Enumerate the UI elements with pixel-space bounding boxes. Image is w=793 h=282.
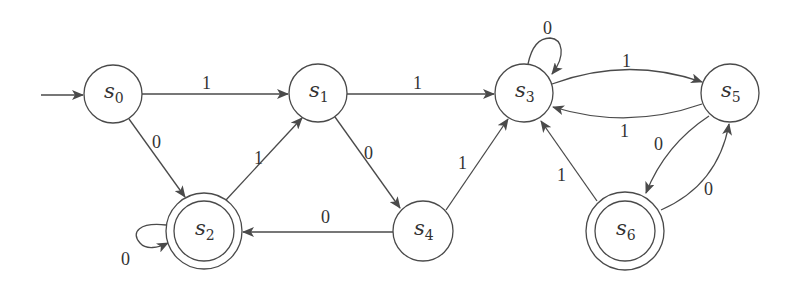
edge-label-s2-s1: 1	[254, 148, 263, 168]
edge-label-s5-s3: 1	[620, 121, 629, 141]
state-s2-accepting: s2	[166, 193, 242, 269]
edge-s6-s5	[661, 124, 729, 210]
edge-label-s0-s1: 1	[202, 73, 211, 93]
edge-s5-s3	[553, 104, 702, 118]
state-s3: s3	[495, 64, 553, 122]
edge-label-s4-s2: 0	[321, 207, 330, 227]
edge-label-s6-s5: 0	[704, 179, 713, 199]
edge-label-s1-s4: 0	[364, 143, 373, 163]
edge-label-s2-loop: 0	[121, 249, 130, 269]
edge-label-s4-s3: 1	[458, 153, 467, 173]
edge-label-s3-loop: 0	[543, 18, 552, 38]
state-diagram: 1 0 1 0 1 0 0 1 0 1 1 0 0 1 s0 s1	[0, 0, 793, 282]
state-s4: s4	[393, 201, 453, 261]
edge-label-s0-s2: 0	[152, 132, 161, 152]
edge-label-s3-s5: 1	[622, 51, 631, 71]
edge-label-s5-s6: 0	[654, 134, 663, 154]
edge-s0-s2	[129, 119, 185, 197]
edge-s3-s5	[552, 69, 702, 84]
edge-label-s1-s3: 1	[413, 73, 422, 93]
edge-label-s6-s3: 1	[557, 165, 566, 185]
edge-s2-loop	[136, 224, 168, 247]
state-s6-accepting: s6	[586, 192, 664, 270]
state-s5: s5	[701, 64, 759, 122]
edge-s2-s1	[226, 118, 302, 200]
state-s1: s1	[289, 64, 347, 122]
edge-s4-s3	[446, 119, 508, 210]
edge-s5-s6	[646, 116, 709, 193]
edge-s6-s3	[541, 121, 597, 201]
state-s0: s0	[84, 65, 142, 123]
